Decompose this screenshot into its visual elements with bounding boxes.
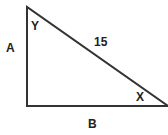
- angle-x-label: X: [136, 90, 144, 104]
- side-b-label: B: [88, 117, 97, 131]
- side-a-label: A: [6, 41, 15, 55]
- right-triangle: [27, 7, 168, 106]
- triangle-diagram: A Y 15 X B: [0, 0, 168, 135]
- angle-y-label: Y: [31, 19, 39, 33]
- hypotenuse-label: 15: [94, 35, 108, 49]
